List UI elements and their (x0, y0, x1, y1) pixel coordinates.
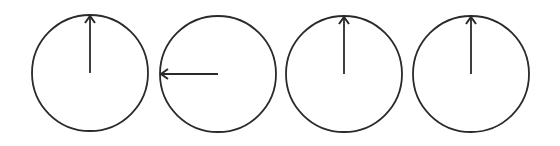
dial-4 (413, 16, 529, 132)
dial-2 (160, 16, 276, 132)
dial-1 (32, 15, 148, 131)
dial-diagram-canvas (0, 0, 560, 146)
dial-diagram (0, 0, 560, 146)
dial-3 (286, 16, 402, 132)
